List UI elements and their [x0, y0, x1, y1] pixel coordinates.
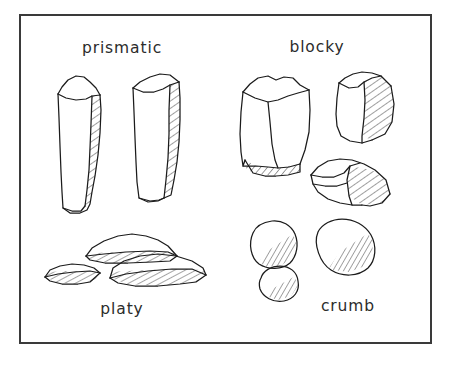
- figure-canvas: prismatic: [0, 0, 449, 368]
- platy-label: platy: [100, 300, 143, 318]
- soil-structure-figure: prismatic: [0, 0, 449, 368]
- blocky-label: blocky: [289, 38, 344, 56]
- prismatic-label: prismatic: [82, 39, 162, 57]
- crumb-label: crumb: [321, 297, 375, 315]
